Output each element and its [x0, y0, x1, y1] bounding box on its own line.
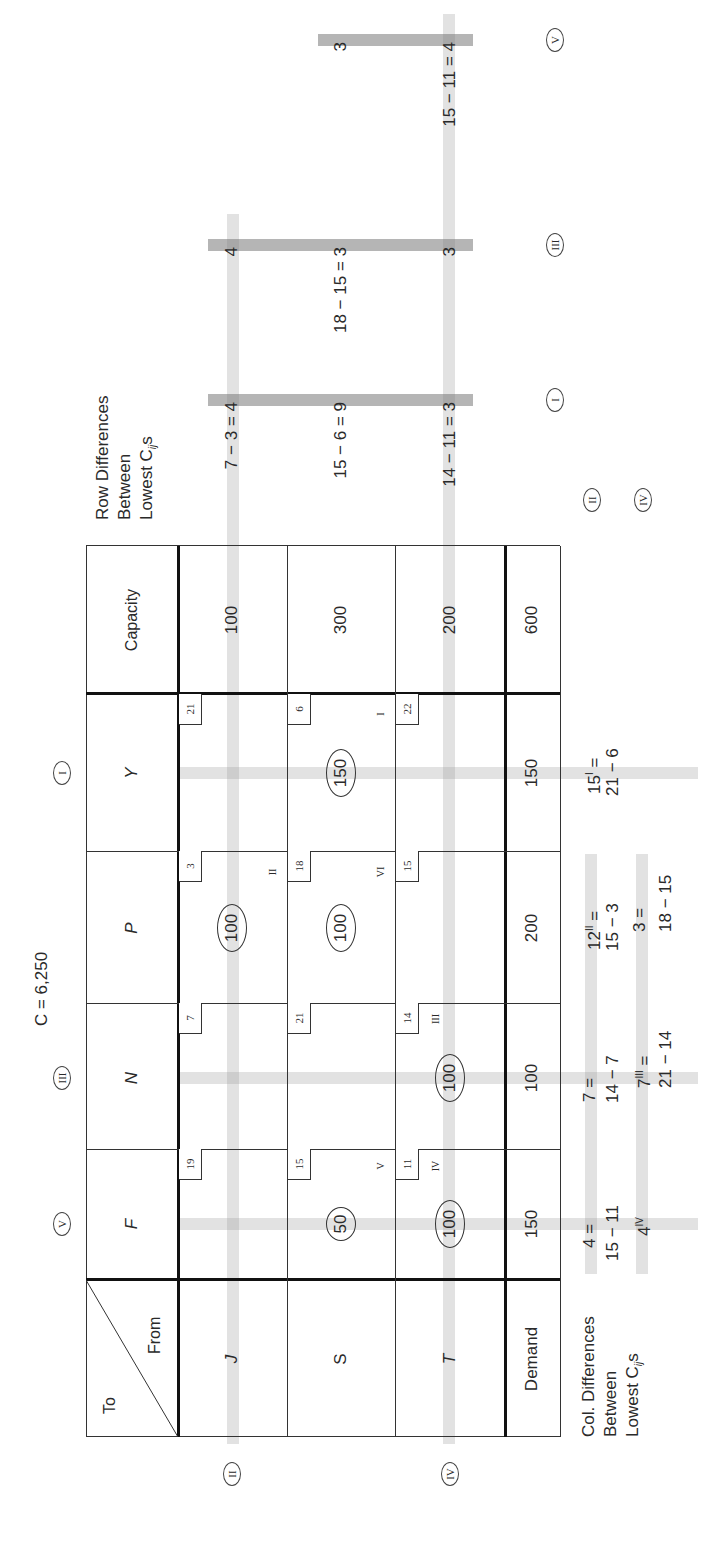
row-diff-marker-III: III: [546, 233, 564, 257]
row-marker-T: IV: [441, 1462, 459, 1486]
col-diff-heading-lowest: Lowest C: [623, 1366, 642, 1437]
col-diff-heading-subscript: ij: [633, 1362, 644, 1366]
row-diff-heading-lowest: Lowest C: [137, 449, 156, 520]
column-header-P: P: [122, 922, 142, 933]
row-diff-marker-V: V: [546, 28, 564, 52]
row-diff-heading-subscript: ij: [147, 445, 158, 449]
row-divider-J-S: [287, 546, 288, 1437]
col-diff-Y-sup: I: [584, 772, 595, 775]
row-marker-J: II: [223, 1462, 241, 1486]
total-capacity-demand: 600: [522, 606, 542, 634]
allocation-J-P: 100: [217, 904, 247, 952]
capacity-col-divider: [86, 692, 560, 695]
row-header-S: S: [331, 1353, 351, 1364]
col-diff-N-iter-eq: =: [635, 1056, 654, 1071]
demand-Y: 150: [522, 759, 542, 787]
col-diff-N-line2: 14 − 7: [603, 1055, 623, 1103]
step-S-F: V: [375, 1162, 386, 1169]
demand-row-label: Demand: [522, 1327, 542, 1391]
cost-S-N: 21: [288, 1003, 311, 1034]
allocation-S-F: 50: [326, 1207, 356, 1241]
cost-J-P: 3: [179, 851, 202, 882]
cost-T-Y: 22: [396, 694, 419, 725]
col-diff-N-iter-sup: III: [634, 1070, 645, 1078]
demand-P: 200: [522, 914, 542, 942]
column-marker-Y: I: [53, 761, 71, 785]
row-differences-heading: Row Differences Between Lowest Cijs: [92, 396, 164, 520]
cost-S-Y: 6: [288, 694, 311, 725]
col-diff-heading-line1: Col. Differences: [578, 1316, 600, 1437]
col-diff-P-line2: 15 − 3: [603, 903, 623, 951]
row-diff-III-J: 4: [222, 247, 242, 256]
row-diff-heading-line3: Lowest Cijs: [136, 396, 164, 520]
col-diff-marker-IV: IV: [634, 488, 652, 512]
col-diff-P-eq: =: [585, 911, 604, 926]
corner-to-label: To: [100, 1397, 120, 1414]
col-diff-heading-line2: Between: [600, 1316, 622, 1437]
corner-from-label: From: [145, 1317, 165, 1354]
cost-J-N: 7: [179, 1003, 202, 1034]
col-diff-marker-II: II: [583, 488, 601, 512]
allocation-S-Y: 150: [326, 749, 356, 797]
col-diff-P-line3: 3 =: [630, 908, 650, 932]
allocation-T-F: 100: [435, 1200, 465, 1248]
col-diff-F-iter-sup: IV: [634, 1217, 645, 1226]
column-marker-F: V: [53, 1212, 71, 1236]
col-diff-N-line4: 21 − 14: [656, 1031, 676, 1088]
cost-S-P: 18: [288, 851, 311, 882]
col-divider-F-N: [86, 1149, 560, 1150]
allocation-S-P: 100: [326, 904, 356, 952]
row-diff-I-T: 14 − 11 = 3: [440, 402, 460, 487]
column-marker-N: III: [53, 1066, 71, 1090]
col-diff-heading-line3: Lowest Cijs: [622, 1316, 650, 1437]
cost-T-N: 14: [396, 1003, 419, 1034]
vogel-transportation-diagram: To From C = 6,250 V III I F N P Y Capaci…: [0, 0, 703, 1544]
step-T-F: IV: [430, 1161, 441, 1172]
demand-F: 150: [522, 1210, 542, 1238]
step-T-N: III: [430, 1014, 441, 1024]
row-header-J: J: [222, 1355, 242, 1364]
row-diff-heading-line1: Row Differences: [92, 396, 114, 520]
column-header-N: N: [122, 1072, 142, 1084]
col-diff-P-sup: II: [584, 926, 595, 932]
col-diff-F-line3: 4IV: [630, 1217, 655, 1236]
capacity-J: 100: [222, 606, 242, 634]
row-diff-I-J: 7 − 3 = 4: [222, 402, 242, 469]
step-S-Y: I: [375, 712, 386, 715]
step-S-P: VI: [375, 867, 386, 878]
col-divider-N-P: [86, 1003, 560, 1004]
total-cost-title: C = 6,250: [32, 952, 52, 1026]
table-border-right: [86, 545, 560, 546]
col-diff-Y-eq: =: [585, 758, 604, 773]
allocation-T-N: 100: [435, 1054, 465, 1102]
row-diff-I-S: 15 − 6 = 9: [331, 402, 351, 479]
col-diff-P-line4: 18 − 15: [656, 875, 676, 932]
col-diff-P-line1: 12II =: [580, 911, 605, 950]
column-header-Y: Y: [122, 767, 142, 778]
step-J-P: II: [267, 869, 278, 876]
col-diff-F-line1: 4 =: [580, 1224, 600, 1248]
capacity-S: 300: [331, 606, 351, 634]
row-diff-V-T: 15 − 11 = 4: [440, 42, 460, 127]
table-border-bottom: [560, 546, 561, 1437]
row-divider-S-T: [395, 546, 396, 1437]
col-diff-N-iter-value: 7: [635, 1079, 654, 1088]
row-diff-III-S: 18 − 15 = 3: [331, 247, 351, 333]
row-diff-heading-suffix: s: [137, 436, 156, 445]
col-divider-P-Y: [86, 851, 560, 852]
cost-J-Y: 21: [179, 694, 202, 725]
row-diff-marker-I: I: [546, 388, 564, 412]
capacity-T: 200: [440, 606, 460, 634]
col-differences-heading: Col. Differences Between Lowest Cijs: [578, 1316, 650, 1437]
col-diff-F-iter-value: 4: [635, 1227, 654, 1236]
col-diff-N-line1: 7 =: [580, 1078, 600, 1102]
cost-T-P: 15: [396, 851, 419, 882]
demand-row-divider: [504, 546, 507, 1437]
row-header-T: T: [440, 1354, 460, 1364]
col-diff-heading-suffix: s: [623, 1353, 642, 1362]
col-diff-P-value: 12: [585, 931, 604, 950]
row-diff-heading-line2: Between: [114, 396, 136, 520]
column-header-F: F: [122, 1219, 142, 1229]
capacity-header: Capacity: [122, 589, 142, 651]
col-diff-F-line2: 15 − 11: [603, 1205, 623, 1261]
